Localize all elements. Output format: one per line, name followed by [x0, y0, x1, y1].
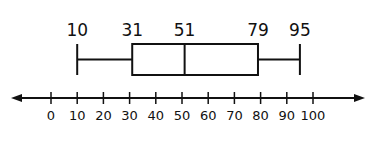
tick-label: 60: [200, 108, 217, 123]
tick-label: 50: [174, 108, 191, 123]
tick-label: 20: [95, 108, 112, 123]
value-label: 31: [121, 20, 143, 40]
value-label: 95: [289, 20, 311, 40]
left-arrow-icon: [11, 94, 22, 102]
iqr-box: [132, 44, 258, 75]
tick-label: 90: [279, 108, 296, 123]
tick-label: 100: [301, 108, 326, 123]
number-line: 0102030405060708090100: [11, 92, 365, 123]
tick-label: 10: [69, 108, 86, 123]
tick-label: 70: [226, 108, 243, 123]
tick-label: 30: [121, 108, 138, 123]
value-label: 79: [247, 20, 269, 40]
box-plot: 1031517995 0102030405060708090100: [0, 0, 378, 143]
tick-label: 40: [148, 108, 165, 123]
tick-label: 0: [47, 108, 55, 123]
value-labels: 1031517995: [66, 20, 310, 40]
value-label: 10: [66, 20, 88, 40]
value-label: 51: [174, 20, 196, 40]
tick-label: 80: [252, 108, 269, 123]
box-and-whiskers: [77, 44, 300, 75]
right-arrow-icon: [354, 94, 365, 102]
